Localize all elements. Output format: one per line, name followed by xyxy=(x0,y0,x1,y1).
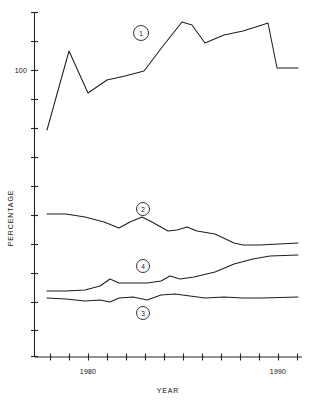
y-tick-label-100: 100 xyxy=(15,67,27,74)
line-chart: 100 1980 1990 YEAR PERCENTAGE 1 2 4 3 xyxy=(0,0,309,401)
y-axis-title: PERCENTAGE xyxy=(7,190,14,247)
series-marker-1: 1 xyxy=(134,26,149,41)
series-marker-2: 2 xyxy=(137,203,150,216)
series-marker-4: 4 xyxy=(137,260,150,273)
series-marker-2-label: 2 xyxy=(141,206,145,213)
series-line-1 xyxy=(47,22,298,130)
series-marker-3: 3 xyxy=(137,307,150,320)
series-marker-4-label: 4 xyxy=(141,263,145,270)
series-line-2 xyxy=(47,214,298,245)
x-tick-label-1990: 1990 xyxy=(270,368,286,375)
series-marker-1-label: 1 xyxy=(139,30,143,37)
series-marker-3-label: 3 xyxy=(141,310,145,317)
x-axis-title: YEAR xyxy=(157,387,180,394)
series-line-4 xyxy=(47,255,298,291)
series-line-3 xyxy=(47,294,298,302)
x-tick-label-1980: 1980 xyxy=(80,368,96,375)
chart-canvas: 100 1980 1990 YEAR PERCENTAGE 1 2 4 3 xyxy=(0,0,309,401)
